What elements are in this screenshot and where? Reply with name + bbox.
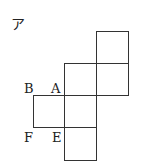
- vertex-label-f: F: [24, 130, 33, 145]
- square-top-right: [97, 32, 129, 64]
- vertex-label-b: B: [24, 81, 34, 96]
- figure-label: ア: [11, 16, 25, 32]
- square-center: [65, 96, 97, 128]
- square-left: [34, 96, 65, 128]
- square-bottom: [65, 128, 97, 161]
- cube-net-diagram: ア B A F E: [0, 0, 143, 167]
- net-squares: [34, 32, 129, 161]
- square-middle-right: [97, 64, 129, 96]
- vertex-label-e: E: [52, 130, 62, 145]
- vertex-label-a: A: [50, 81, 61, 96]
- square-middle-left: [65, 64, 97, 96]
